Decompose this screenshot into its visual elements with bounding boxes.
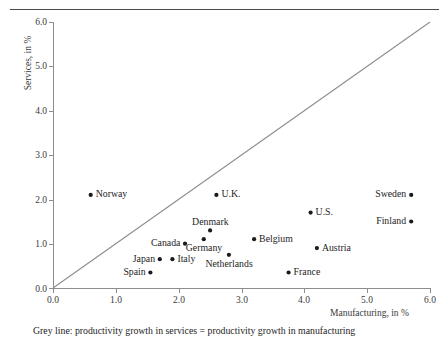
x-tick-mark-6 — [430, 289, 431, 293]
data-point-label: Finland — [376, 216, 406, 226]
data-point-label: Japan — [133, 254, 155, 264]
data-point-label: Sweden — [375, 189, 406, 199]
y-tick-label-3: 3.0 — [21, 150, 47, 160]
y-tick-mark-6 — [49, 22, 53, 23]
scatter-chart-figure: Services, in % Manufacturing, in % 6.0 5… — [0, 0, 447, 346]
data-point-label: Spain — [123, 267, 145, 277]
x-tick-label-6: 6.0 — [415, 295, 445, 305]
y-tick-mark-1 — [49, 244, 53, 245]
x-tick-label-0: 0.0 — [38, 295, 68, 305]
y-tick-mark-4 — [49, 111, 53, 112]
x-tick-mark-2 — [179, 289, 180, 293]
data-point-label: Denmark — [192, 217, 228, 227]
y-tick-label-5: 5.0 — [21, 61, 47, 71]
data-point-label: Belgium — [259, 234, 293, 244]
y-tick-label-1: 1.0 — [21, 239, 47, 249]
data-point-label: U.K. — [221, 189, 240, 199]
data-point-label: France — [294, 267, 321, 277]
x-axis-title: Manufacturing, in % — [330, 308, 409, 318]
y-tick-mark-2 — [49, 200, 53, 201]
x-tick-label-3: 3.0 — [227, 295, 257, 305]
data-point-label: Italy — [177, 254, 195, 264]
y-tick-label-6: 6.0 — [21, 17, 47, 27]
chart-caption: Grey line: productivity growth in servic… — [33, 325, 355, 336]
data-point-label: Germany — [186, 243, 222, 253]
x-tick-label-1: 1.0 — [101, 295, 131, 305]
x-tick-mark-5 — [367, 289, 368, 293]
y-tick-label-2: 2.0 — [21, 195, 47, 205]
data-point-label: U.S. — [316, 207, 333, 217]
y-tick-label-0: 0.0 — [21, 284, 47, 294]
x-tick-label-4: 4.0 — [289, 295, 319, 305]
x-tick-label-5: 5.0 — [352, 295, 382, 305]
plot-area-frame — [53, 22, 431, 289]
data-point-label: Norway — [96, 189, 128, 199]
y-tick-mark-3 — [49, 155, 53, 156]
x-tick-mark-3 — [242, 289, 243, 293]
data-point-label: Netherlands — [205, 259, 252, 269]
data-point-label: Austria — [322, 243, 351, 253]
y-tick-label-4: 4.0 — [21, 106, 47, 116]
x-tick-label-2: 2.0 — [164, 295, 194, 305]
x-tick-mark-1 — [116, 289, 117, 293]
data-point-label: Canada — [151, 238, 180, 248]
x-tick-mark-4 — [304, 289, 305, 293]
x-tick-mark-0 — [53, 289, 54, 293]
y-tick-mark-5 — [49, 66, 53, 67]
